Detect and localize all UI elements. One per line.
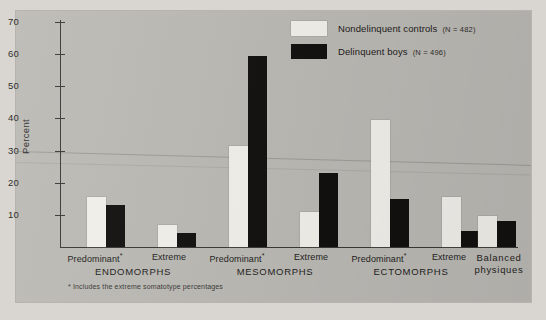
y-tick-label-60: 60: [0, 48, 19, 59]
y-axis-title: Percent: [20, 119, 31, 154]
bar-control-mesomorph-extreme: [300, 212, 319, 247]
x-label-ectomorph-predominant: Predominant*: [344, 252, 414, 264]
y-tick-label-20: 20: [0, 177, 19, 188]
x-label-endomorph-predominant: Predominant*: [60, 252, 130, 264]
bar-control-ectomorph-extreme: [442, 197, 461, 247]
y-tick-label-40: 40: [0, 112, 19, 123]
balanced-line-1: Balanced: [468, 252, 530, 264]
x-label-text: Extreme: [152, 252, 186, 262]
legend-label-control-text: Nondelinquent controls: [338, 23, 437, 34]
x-label-mesomorph-predominant: Predominant*: [202, 252, 272, 264]
x-label-endomorph-extreme: Extreme: [136, 252, 202, 262]
bar-control-endomorph-predominant: [87, 197, 106, 247]
x-group-label-ectomorphs: ECTOMORPHS: [346, 266, 476, 277]
x-label-text: Predominant: [352, 254, 404, 264]
x-group-label-endomorphs: ENDOMORPHS: [68, 266, 198, 277]
bar-delinquent-endomorph-predominant: [106, 205, 125, 247]
bar-delinquent-ectomorph-predominant: [390, 199, 409, 247]
legend-item-nondelinquent-controls: Nondelinquent controls(N = 482): [291, 21, 521, 36]
legend-label-delinquent-text: Delinquent boys: [338, 46, 408, 57]
x-label-text: Extreme: [432, 252, 466, 262]
legend-label-delinquent: Delinquent boys(N = 496): [338, 46, 446, 57]
x-label-text: Predominant: [210, 254, 262, 264]
x-axis-line: [60, 247, 518, 248]
x-group-label-mesomorphs: MESOMORPHS: [210, 266, 340, 277]
chart-panel: Percent 70 60 50 40 30 20 10: [16, 11, 531, 302]
bar-control-ectomorph-predominant: [371, 120, 390, 247]
legend-swatch-delinquent-icon: [291, 44, 327, 59]
x-label-star: *: [404, 252, 407, 259]
legend-n-control: (N = 482): [442, 25, 475, 34]
x-label-star: *: [120, 252, 123, 259]
x-label-mesomorph-extreme: Extreme: [278, 252, 344, 262]
x-label-balanced-physiques: Balanced physiques: [468, 252, 530, 276]
bar-control-endomorph-extreme: [158, 225, 177, 248]
balanced-line-2: physiques: [468, 264, 530, 276]
y-tick-label-30: 30: [0, 145, 19, 156]
bar-control-mesomorph-predominant: [229, 146, 248, 247]
y-tick-label-50: 50: [0, 80, 19, 91]
chart-footnote: * Includes the extreme somatotype percen…: [68, 283, 223, 290]
bar-delinquent-endomorph-extreme: [177, 233, 196, 247]
y-tick-label-10: 10: [0, 209, 19, 220]
y-tick-label-70: 70: [0, 16, 19, 27]
legend-item-delinquent-boys: Delinquent boys(N = 496): [291, 44, 521, 59]
bar-delinquent-mesomorph-predominant: [248, 56, 267, 247]
chart-screenshot: Percent 70 60 50 40 30 20 10: [0, 0, 546, 320]
x-label-text: Extreme: [294, 252, 328, 262]
legend-n-delinquent: (N = 496): [413, 48, 446, 57]
legend-swatch-control-icon: [291, 21, 327, 36]
legend-label-control: Nondelinquent controls(N = 482): [338, 23, 476, 34]
bar-delinquent-mesomorph-extreme: [319, 173, 338, 247]
bar-delinquent-balanced: [497, 221, 516, 247]
x-label-star: *: [262, 252, 265, 259]
bar-control-balanced: [478, 216, 497, 247]
chart-legend: Nondelinquent controls(N = 482) Delinque…: [291, 21, 521, 67]
x-label-text: Predominant: [68, 254, 120, 264]
